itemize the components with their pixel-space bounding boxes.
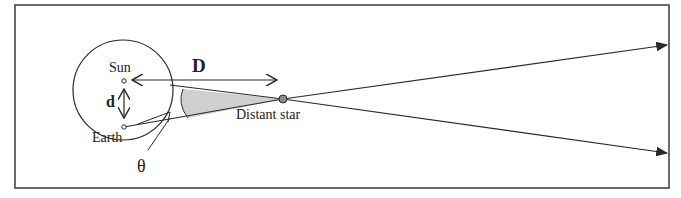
upper-ray-arrow <box>283 45 667 99</box>
sun-dot <box>122 79 126 83</box>
theta-label: θ <box>137 156 146 176</box>
distance-D-label: D <box>192 55 206 76</box>
earth-dot <box>122 125 126 129</box>
parallax-diagram: Sun Earth D d θ Distant star <box>0 0 681 198</box>
distant-star-label: Distant star <box>236 107 300 122</box>
earth-label: Earth <box>92 130 122 145</box>
sun-label: Sun <box>109 60 131 75</box>
distance-d-label: d <box>106 93 115 110</box>
lower-ray-arrow <box>283 99 667 153</box>
distant-star-dot <box>279 95 287 103</box>
